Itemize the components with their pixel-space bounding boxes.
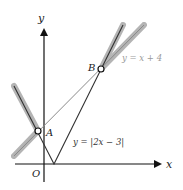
- line-equation-label: y = x + 4: [121, 53, 162, 63]
- origin-label: O: [32, 168, 40, 179]
- point-b-label: B: [87, 62, 95, 73]
- point-a-label: A: [45, 127, 53, 138]
- x-axis-label: x: [166, 158, 173, 171]
- abs-equation-label: y = |2x − 3|: [72, 137, 124, 148]
- point-b-marker: [98, 66, 104, 72]
- y-axis-label: y: [37, 12, 45, 25]
- point-a-marker: [35, 128, 41, 134]
- graph-canvas: y x O A B y = x + 4 y = |2x − 3|: [0, 0, 183, 190]
